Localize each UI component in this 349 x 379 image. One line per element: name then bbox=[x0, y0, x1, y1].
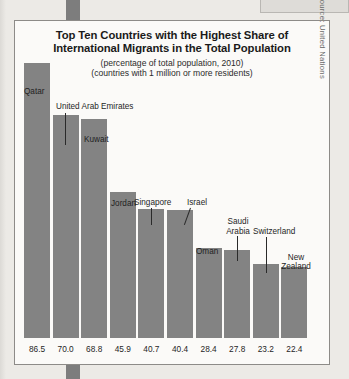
bar-slot-kuwait bbox=[81, 63, 107, 338]
bar-slot-switzerland bbox=[253, 63, 279, 338]
chart-title: Top Ten Countries with the Highest Share… bbox=[27, 29, 317, 56]
bar-qatar bbox=[24, 63, 50, 338]
value-label-oman: 28.4 bbox=[196, 344, 222, 354]
chart-title-line-1: Top Ten Countries with the Highest Share… bbox=[27, 29, 317, 42]
page-spine-artifact-top bbox=[66, 0, 80, 20]
bar-united-arab-emirates bbox=[53, 115, 79, 338]
bar-label-kuwait: Kuwait bbox=[84, 135, 109, 145]
bar-slot-saudi-arabia bbox=[224, 63, 250, 338]
value-label-israel: 40.4 bbox=[167, 344, 193, 354]
bar-slot-qatar bbox=[24, 63, 50, 338]
page-box-artifact-top-right bbox=[260, 0, 349, 13]
bar-singapore bbox=[138, 209, 164, 338]
bar-oman bbox=[196, 248, 222, 338]
value-label-switzerland: 23.2 bbox=[253, 344, 279, 354]
bar-jordan bbox=[110, 192, 136, 338]
bar-label-new-zealand-line-2: Zealand bbox=[281, 262, 311, 271]
page-spine-artifact-bottom bbox=[66, 365, 80, 379]
value-label-kuwait: 68.8 bbox=[81, 344, 107, 354]
bar-label-oman: Oman bbox=[196, 247, 218, 257]
value-label-qatar: 86.5 bbox=[24, 344, 50, 354]
bar-label-jordan: Jordan bbox=[111, 199, 136, 209]
bar-kuwait bbox=[81, 119, 107, 338]
value-label-jordan: 45.9 bbox=[110, 344, 136, 354]
bar-israel bbox=[167, 210, 193, 338]
bar-label-singapore: Singapore bbox=[134, 198, 171, 208]
leader-line-singapore bbox=[151, 208, 152, 225]
bar-label-qatar: Qatar bbox=[24, 87, 44, 97]
bar-switzerland bbox=[253, 264, 279, 338]
bar-label-saudi-arabia-line-1: Saudi bbox=[228, 217, 249, 226]
value-label-united-arab-emirates: 70.0 bbox=[53, 344, 79, 354]
chart-panel: Top Ten Countries with the Highest Share… bbox=[14, 20, 330, 365]
value-label-new-zealand: 22.4 bbox=[281, 344, 307, 354]
plot-area: Qatar United Arab Emirates Kuwait Jordan… bbox=[24, 63, 303, 338]
bar-label-saudi-arabia: Saudi Arabia bbox=[222, 217, 254, 236]
bar-slot-new-zealand bbox=[281, 63, 307, 338]
source-note: Source: United Nations bbox=[318, 0, 327, 79]
value-label-saudi-arabia: 27.8 bbox=[224, 344, 250, 354]
bar-label-saudi-arabia-line-2: Arabia bbox=[226, 227, 250, 236]
leader-line-saudi-arabia bbox=[237, 236, 238, 261]
value-label-row: 86.5 70.0 68.8 45.9 40.7 40.4 28.4 27.8 … bbox=[24, 342, 303, 358]
chart-title-line-2: International Migrants in the Total Popu… bbox=[27, 42, 317, 55]
page-edge-shading bbox=[0, 0, 6, 379]
bar-new-zealand bbox=[281, 267, 307, 338]
bar-saudi-arabia bbox=[224, 250, 250, 338]
value-label-singapore: 40.7 bbox=[138, 344, 164, 354]
bar-slot-oman bbox=[196, 63, 222, 338]
leader-line-united-arab-emirates bbox=[65, 113, 66, 145]
bar-label-new-zealand-line-1: New bbox=[288, 253, 304, 262]
leader-line-switzerland bbox=[266, 237, 267, 273]
bar-label-new-zealand: New Zealand bbox=[278, 253, 314, 272]
